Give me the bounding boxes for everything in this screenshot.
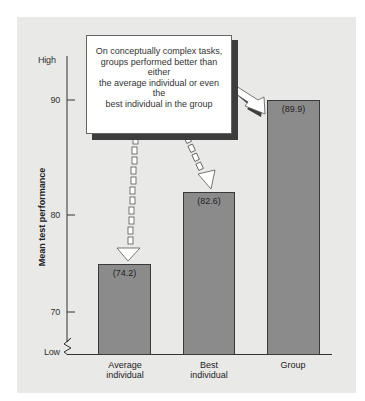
- bar-value-best: (82.6): [184, 196, 234, 206]
- bar-value-group: (89.9): [268, 104, 319, 114]
- category-label-average: Average individual: [90, 360, 160, 380]
- ytick-70: 70: [30, 307, 60, 317]
- category-label-group: Group: [258, 360, 328, 370]
- callout-text: On conceptually complex tasks, groups pe…: [87, 46, 231, 123]
- bar-value-average: (74.2): [99, 268, 150, 278]
- y-bottom-label: Low: [44, 347, 60, 357]
- category-label-best: Best individual: [174, 360, 244, 380]
- bar-group: (89.9): [267, 100, 320, 355]
- bar-average-individual: (74.2): [98, 264, 151, 355]
- y-top-label: High: [38, 55, 56, 65]
- ytick-90: 90: [30, 95, 60, 105]
- bar-best-individual: (82.6): [183, 192, 235, 355]
- arrow-to-average-icon: [117, 137, 140, 261]
- y-axis-title: Mean test performance: [37, 152, 47, 282]
- arrow-to-best-icon: [184, 135, 215, 189]
- callout-box: On conceptually complex tasks, groups pe…: [86, 35, 232, 134]
- axis-break-icon: [64, 338, 71, 355]
